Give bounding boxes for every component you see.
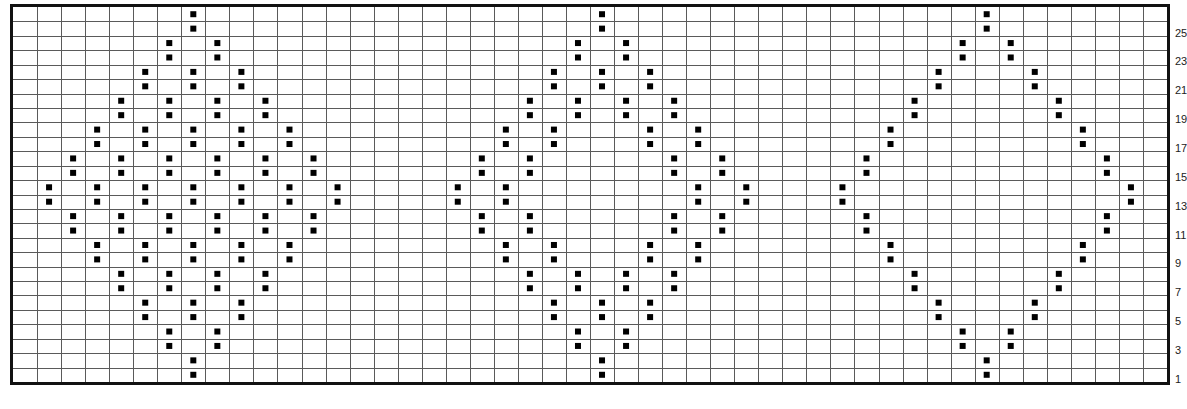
stitch-marker — [1008, 343, 1014, 349]
stitch-marker — [527, 112, 533, 118]
row-label: 1 — [1175, 373, 1181, 385]
stitch-marker — [190, 300, 196, 306]
stitch-marker — [166, 54, 172, 60]
stitch-marker — [647, 83, 653, 89]
stitch-marker — [599, 372, 605, 378]
stitch-marker — [1128, 184, 1134, 190]
stitch-marker — [1080, 242, 1086, 248]
stitch-marker — [671, 112, 677, 118]
stitch-marker — [575, 343, 581, 349]
stitch-marker — [671, 170, 677, 176]
stitch-marker — [311, 155, 317, 161]
stitch-marker — [94, 127, 100, 133]
stitch-marker — [214, 54, 220, 60]
stitch-marker — [647, 314, 653, 320]
row-label: 17 — [1175, 142, 1187, 154]
stitch-marker — [311, 170, 317, 176]
stitch-marker — [575, 54, 581, 60]
stitch-marker — [623, 112, 629, 118]
row-label: 5 — [1175, 315, 1181, 327]
row-label: 23 — [1175, 55, 1187, 67]
stitch-marker — [575, 112, 581, 118]
stitch-marker — [1032, 83, 1038, 89]
stitch-marker — [479, 155, 485, 161]
stitch-marker — [912, 112, 918, 118]
stitch-marker — [190, 372, 196, 378]
stitch-marker — [671, 98, 677, 104]
stitch-marker — [118, 170, 124, 176]
stitch-marker — [46, 184, 52, 190]
stitch-marker — [575, 329, 581, 335]
stitch-marker — [142, 127, 148, 133]
stitch-marker — [551, 127, 557, 133]
stitch-marker — [238, 83, 244, 89]
stitch-marker — [695, 256, 701, 262]
stitch-marker — [142, 69, 148, 75]
stitch-marker — [142, 141, 148, 147]
stitch-marker — [118, 271, 124, 277]
stitch-marker — [118, 155, 124, 161]
stitch-marker — [238, 314, 244, 320]
stitch-marker — [888, 242, 894, 248]
stitch-marker — [190, 11, 196, 17]
stitch-marker — [238, 199, 244, 205]
stitch-marker — [623, 40, 629, 46]
stitch-marker — [286, 256, 292, 262]
stitch-marker — [166, 155, 172, 161]
row-label: 9 — [1175, 257, 1181, 269]
stitch-marker — [286, 199, 292, 205]
stitch-marker — [238, 242, 244, 248]
stitch-marker — [262, 98, 268, 104]
stitch-marker — [166, 98, 172, 104]
stitch-marker — [214, 329, 220, 335]
stitch-marker — [94, 256, 100, 262]
stitch-marker — [551, 83, 557, 89]
stitch-marker — [1032, 314, 1038, 320]
stitch-marker — [214, 40, 220, 46]
stitch-marker — [527, 213, 533, 219]
stitch-marker — [647, 141, 653, 147]
stitch-marker — [94, 199, 100, 205]
stitch-marker — [1080, 256, 1086, 262]
stitch-marker — [70, 170, 76, 176]
stitch-marker — [335, 199, 341, 205]
stitch-marker — [527, 285, 533, 291]
stitch-marker — [503, 242, 509, 248]
stitch-marker — [960, 329, 966, 335]
stitch-marker — [70, 228, 76, 234]
stitch-marker — [671, 228, 677, 234]
stitch-marker — [503, 184, 509, 190]
stitch-marker — [599, 300, 605, 306]
stitch-marker — [142, 300, 148, 306]
stitch-marker — [623, 285, 629, 291]
stitch-marker — [70, 213, 76, 219]
stitch-marker — [238, 127, 244, 133]
row-label: 13 — [1175, 200, 1187, 212]
stitch-marker — [335, 184, 341, 190]
stitch-marker — [527, 170, 533, 176]
stitch-marker — [238, 256, 244, 262]
row-label: 25 — [1175, 27, 1187, 39]
stitch-marker — [166, 213, 172, 219]
stitch-marker — [936, 69, 942, 75]
stitch-marker — [960, 40, 966, 46]
stitch-marker — [503, 199, 509, 205]
stitch-marker — [166, 271, 172, 277]
stitch-marker — [551, 314, 557, 320]
stitch-marker — [647, 69, 653, 75]
stitch-chart-grid — [10, 4, 1170, 385]
stitch-marker — [166, 40, 172, 46]
stitch-marker — [575, 98, 581, 104]
stitch-marker — [647, 127, 653, 133]
stitch-marker — [503, 141, 509, 147]
row-label: 15 — [1175, 171, 1187, 183]
stitch-marker — [984, 357, 990, 363]
stitch-marker — [311, 228, 317, 234]
single-outline-diamond-motif — [839, 11, 1134, 378]
stitch-marker — [118, 98, 124, 104]
stitch-marker — [190, 357, 196, 363]
stitch-marker — [551, 69, 557, 75]
stitch-marker — [94, 141, 100, 147]
stitch-marker — [238, 184, 244, 190]
stitch-marker — [695, 242, 701, 248]
